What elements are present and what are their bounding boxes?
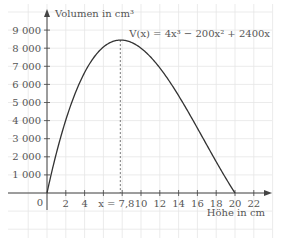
x-tick-label: 12 <box>153 198 166 209</box>
y-tick-label: 6 000 <box>12 79 41 90</box>
y-axis-title: Volumen in cm³ <box>54 8 134 19</box>
y-tick-label: 8 000 <box>12 43 41 54</box>
y-tick-label: 3 000 <box>12 133 41 144</box>
x-axis-arrow-icon <box>264 190 272 196</box>
axes <box>8 9 272 210</box>
x-tick-label: 16 <box>191 198 204 209</box>
y-tick-label: 9 000 <box>12 25 41 36</box>
x-axis-title: Höhe in cm <box>207 207 266 218</box>
x-tick-label: 10 <box>135 198 148 209</box>
y-tick-label: 1 000 <box>12 169 41 180</box>
volume-chart: 24101214161820221 0002 0003 0004 0005 00… <box>0 0 282 241</box>
maximum-annotation: x = 7,8 <box>98 198 134 209</box>
function-formula: V(x) = 4x³ − 200x² + 2400x <box>128 28 270 39</box>
x-tick-label: 2 <box>63 198 69 209</box>
y-tick-label: 2 000 <box>12 151 41 162</box>
y-axis-arrow-icon <box>44 9 50 17</box>
y-tick-label: 4 000 <box>12 115 41 126</box>
x-tick-label: 4 <box>81 198 87 209</box>
y-tick-label: 5 000 <box>12 97 41 108</box>
x-tick-label: 14 <box>172 198 185 209</box>
origin-label: 0 <box>37 197 43 208</box>
y-tick-label: 7 000 <box>12 61 41 72</box>
